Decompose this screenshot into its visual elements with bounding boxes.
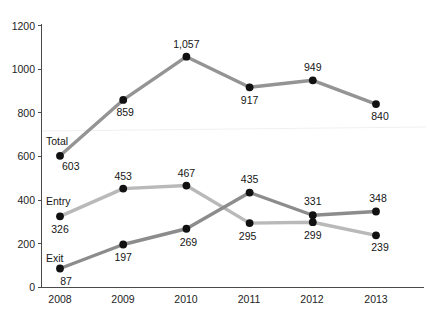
y-tick-label-800: 800 — [17, 107, 35, 119]
x-tick-label-2011: 2011 — [238, 293, 261, 305]
data-point-exit-2012 — [309, 211, 317, 219]
series-label-total: Total — [46, 135, 68, 147]
data-point-exit-2013 — [372, 208, 380, 216]
x-tick-label-2009: 2009 — [111, 293, 135, 305]
line-chart: 1200 1000 800 600 400 200 0 2008 2009 20… — [0, 0, 428, 322]
value-label-total-2013: 840 — [371, 110, 389, 122]
series-label-exit: Exit — [46, 252, 64, 264]
data-point-entry-2011 — [246, 219, 254, 227]
y-tick-label-400: 400 — [17, 194, 35, 206]
value-label-exit-2011: 435 — [241, 173, 259, 185]
data-point-total-2012 — [309, 76, 317, 84]
data-point-exit-2010 — [183, 225, 191, 233]
y-tick-label-1200: 1200 — [12, 20, 36, 32]
data-point-entry-2010 — [183, 182, 191, 190]
value-label-entry-2012: 299 — [304, 229, 322, 241]
y-tick-label-0: 0 — [29, 281, 35, 293]
value-label-exit-2013: 348 — [369, 192, 387, 204]
series-line-total — [60, 57, 376, 156]
data-point-entry-2012 — [309, 218, 317, 226]
chart-canvas: 1200 1000 800 600 400 200 0 2008 2009 20… — [0, 0, 428, 322]
y-tick-label-200: 200 — [17, 238, 35, 250]
data-point-exit-2008 — [56, 265, 64, 273]
faint-gridline — [42, 127, 426, 131]
data-point-exit-2009 — [119, 241, 127, 249]
x-axis-tick-labels: 2008 2009 2010 2011 2012 2013 — [48, 293, 388, 305]
value-label-entry-2010: 467 — [178, 167, 196, 179]
x-tick-label-2008: 2008 — [48, 293, 72, 305]
value-label-entry-2008: 326 — [51, 223, 69, 235]
data-point-total-2010 — [183, 53, 191, 61]
value-label-total-2011: 917 — [241, 94, 259, 106]
x-tick-label-2010: 2010 — [174, 293, 198, 305]
value-label-exit-2008: 87 — [60, 275, 72, 287]
y-tick-label-600: 600 — [17, 150, 35, 162]
data-point-entry-2013 — [372, 231, 380, 239]
value-label-total-2009: 859 — [116, 106, 134, 118]
value-label-exit-2009: 197 — [114, 251, 132, 263]
y-axis-tick-labels: 1200 1000 800 600 400 200 0 — [12, 20, 36, 294]
value-label-exit-2010: 269 — [180, 236, 198, 248]
value-label-total-2010: 1,057 — [173, 38, 199, 50]
y-axis-ticks — [38, 26, 42, 288]
value-label-entry-2009: 453 — [114, 170, 132, 182]
series-layer — [60, 57, 376, 269]
data-point-total-2013 — [372, 100, 380, 108]
x-tick-label-2013: 2013 — [364, 293, 388, 305]
x-tick-label-2012: 2012 — [300, 293, 324, 305]
data-point-entry-2008 — [56, 212, 64, 220]
value-label-layer: 6038591,05791794984032645346729529923987… — [51, 38, 389, 287]
value-label-total-2012: 949 — [304, 61, 322, 73]
series-label-entry: Entry — [46, 195, 71, 207]
y-tick-label-1000: 1000 — [12, 63, 36, 75]
value-label-total-2008: 603 — [62, 160, 80, 172]
data-point-exit-2011 — [246, 189, 254, 197]
value-label-entry-2011: 295 — [239, 230, 257, 242]
data-point-total-2008 — [56, 152, 64, 160]
data-point-total-2011 — [246, 83, 254, 91]
value-label-entry-2013: 239 — [371, 241, 389, 253]
value-label-exit-2012: 331 — [304, 195, 322, 207]
data-point-entry-2009 — [119, 185, 127, 193]
data-point-total-2009 — [119, 96, 127, 104]
